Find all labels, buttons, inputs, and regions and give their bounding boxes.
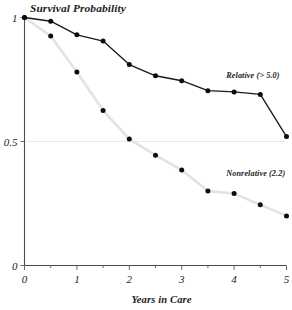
data-point-nonrelative-x2 [127, 137, 132, 142]
data-point-nonrelative-x1.5 [101, 108, 106, 113]
y-tick-label-1: 1 [12, 12, 18, 24]
data-point-nonrelative-x0 [22, 15, 27, 20]
y-tick-label-0: 0 [12, 260, 18, 272]
data-point-nonrelative-x3.5 [205, 189, 210, 194]
series-lines-group [25, 18, 287, 216]
series-annotation-nonrelative: Nonrelative (2.2) [225, 169, 285, 178]
data-point-nonrelative-x1 [74, 70, 79, 75]
chart-canvas: 01234510.50Survival ProbabilityYears in … [0, 0, 292, 310]
data-point-nonrelative-x0.5 [48, 34, 53, 39]
data-point-nonrelative-x4 [232, 191, 237, 196]
tick-marks-group [21, 18, 287, 271]
data-point-nonrelative-x3 [179, 168, 184, 173]
x-tick-label-2: 2 [127, 273, 133, 285]
data-point-relative-x0.5 [48, 19, 53, 24]
x-tick-label-3: 3 [178, 273, 185, 285]
survival-probability-chart: 01234510.50Survival ProbabilityYears in … [0, 0, 292, 310]
data-point-relative-x2 [127, 62, 132, 67]
x-tick-label-1: 1 [74, 273, 80, 285]
data-point-relative-x1.5 [101, 39, 106, 44]
y-tick-label-0.5: 0.5 [4, 136, 18, 148]
data-point-markers-group [22, 15, 289, 218]
data-point-nonrelative-x4.5 [258, 202, 263, 207]
data-point-relative-x4.5 [258, 92, 263, 97]
x-axis-title: Years in Care [131, 294, 191, 305]
x-tick-label-5: 5 [284, 273, 290, 285]
data-point-relative-x4 [232, 89, 237, 94]
data-point-nonrelative-x2.5 [153, 153, 158, 158]
data-point-relative-x1 [74, 32, 79, 37]
x-tick-label-4: 4 [231, 273, 237, 285]
data-point-nonrelative-x5 [284, 213, 289, 218]
data-point-relative-x3.5 [205, 88, 210, 93]
data-point-relative-x3 [179, 78, 184, 83]
series-line-nonrelative [25, 18, 287, 216]
data-point-relative-x2.5 [153, 73, 158, 78]
chart-title: Survival Probability [30, 2, 127, 14]
data-point-relative-x5 [284, 134, 289, 139]
series-annotation-relative: Relative (> 5.0) [225, 71, 280, 80]
text-labels-group: 01234510.50Survival ProbabilityYears in … [4, 2, 290, 305]
x-tick-label-0: 0 [22, 273, 28, 285]
